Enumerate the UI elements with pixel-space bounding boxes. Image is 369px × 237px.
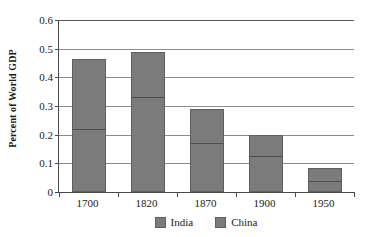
legend-label: China	[231, 216, 257, 228]
legend-swatch-icon	[155, 217, 166, 228]
bar-segment-india[interactable]	[249, 156, 283, 192]
bar-segment-india[interactable]	[72, 129, 106, 192]
y-axis-title-label: Percent of World GDP	[7, 49, 18, 148]
y-axis-tick-label: 0.1	[39, 157, 53, 169]
y-axis-tick-labels: 00.10.20.30.40.50.6	[24, 14, 56, 194]
x-axis-tick-label: 1700	[77, 197, 99, 209]
y-axis-title: Percent of World GDP	[0, 0, 24, 196]
y-axis-tick-mark	[55, 20, 59, 21]
legend-swatch-icon	[215, 217, 226, 228]
x-axis-tick-label: 1900	[254, 197, 276, 209]
bar-segment-china[interactable]	[72, 59, 106, 129]
legend-entry-china[interactable]: China	[215, 216, 257, 228]
x-axis-tick-labels: 17001820187019001950	[58, 197, 354, 213]
bar-segment-china[interactable]	[190, 109, 224, 143]
y-axis-tick-label: 0.5	[39, 43, 53, 55]
x-axis-tick-label: 1950	[313, 197, 335, 209]
bar-segment-china[interactable]	[131, 52, 165, 98]
y-axis-tick-label: 0.4	[39, 71, 53, 83]
bar-stack-1870[interactable]	[190, 109, 224, 192]
y-axis-tick-mark	[55, 135, 59, 136]
gridline	[59, 20, 354, 21]
bar-segment-china[interactable]	[308, 168, 342, 181]
y-axis-tick-label: 0.6	[39, 14, 53, 26]
bar-stack-1950[interactable]	[308, 168, 342, 192]
y-axis-tick-mark	[55, 106, 59, 107]
y-axis-tick-mark	[55, 163, 59, 164]
y-axis-tick-label: 0	[48, 186, 54, 198]
chart-legend: IndiaChina	[58, 214, 354, 230]
y-axis-tick-mark	[55, 49, 59, 50]
x-axis-tick-mark	[354, 192, 355, 197]
y-axis-tick-label: 0.3	[39, 100, 53, 112]
bar-stack-1820[interactable]	[131, 52, 165, 192]
y-axis-tick-mark	[55, 77, 59, 78]
legend-entry-india[interactable]: India	[155, 216, 194, 228]
bar-segment-india[interactable]	[190, 143, 224, 192]
bar-segment-india[interactable]	[131, 97, 165, 192]
x-axis-tick-label: 1820	[136, 197, 158, 209]
plot-area	[58, 20, 354, 193]
gridline	[59, 49, 354, 50]
legend-label: India	[171, 216, 194, 228]
bar-stack-1900[interactable]	[249, 135, 283, 192]
x-axis-tick-label: 1870	[195, 197, 217, 209]
chart-container: Percent of World GDP 00.10.20.30.40.50.6…	[0, 0, 369, 237]
bar-segment-india[interactable]	[308, 181, 342, 192]
bar-segment-china[interactable]	[249, 135, 283, 157]
bar-stack-1700[interactable]	[72, 59, 106, 192]
y-axis-tick-label: 0.2	[39, 129, 53, 141]
